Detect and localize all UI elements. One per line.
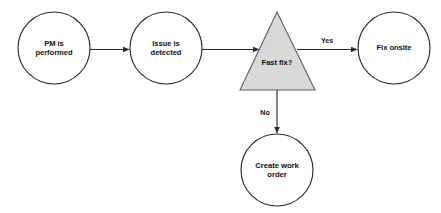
node-pm-performed[interactable] [18, 12, 90, 84]
node-fix-onsite[interactable] [358, 12, 430, 84]
flowchart-canvas: PM is performed Issue is detected Fast f… [0, 0, 441, 213]
node-create-work-order[interactable] [241, 134, 313, 206]
node-fast-fix-decision[interactable] [240, 12, 315, 90]
node-issue-detected[interactable] [130, 12, 202, 84]
flowchart-svg [0, 0, 441, 213]
